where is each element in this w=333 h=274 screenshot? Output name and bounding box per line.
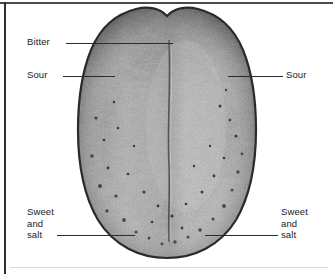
label-bitter: Bitter — [27, 36, 50, 48]
leader-line-bitter — [66, 43, 173, 44]
leader-line-sweet-salt-right — [205, 235, 278, 236]
label-sour-left: Sour — [27, 69, 47, 81]
tongue-taste-map-figure: Bitter Sour Sour Sweet and salt Sweet an… — [0, 0, 333, 274]
label-sweet-salt-left: Sweet and salt — [27, 206, 54, 241]
leader-line-sour-left — [63, 76, 115, 77]
frame-left-rule — [4, 2, 6, 274]
label-sweet-salt-right: Sweet and salt — [281, 206, 308, 241]
tongue-illustration — [74, 6, 260, 260]
frame-bottom-rule — [10, 267, 328, 268]
leader-line-sour-right — [228, 76, 283, 77]
label-sour-right: Sour — [286, 69, 306, 81]
tongue-drawing — [74, 6, 260, 260]
frame-top-rule — [0, 2, 333, 4]
leader-line-sweet-salt-left — [57, 235, 135, 236]
